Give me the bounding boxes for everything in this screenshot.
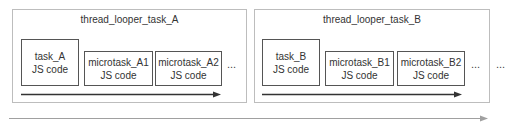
arrows-layer: [0, 0, 510, 132]
thread-a-arrow: [21, 92, 221, 98]
timeline-arrow: [9, 116, 488, 122]
thread-b-arrow: [262, 92, 462, 98]
